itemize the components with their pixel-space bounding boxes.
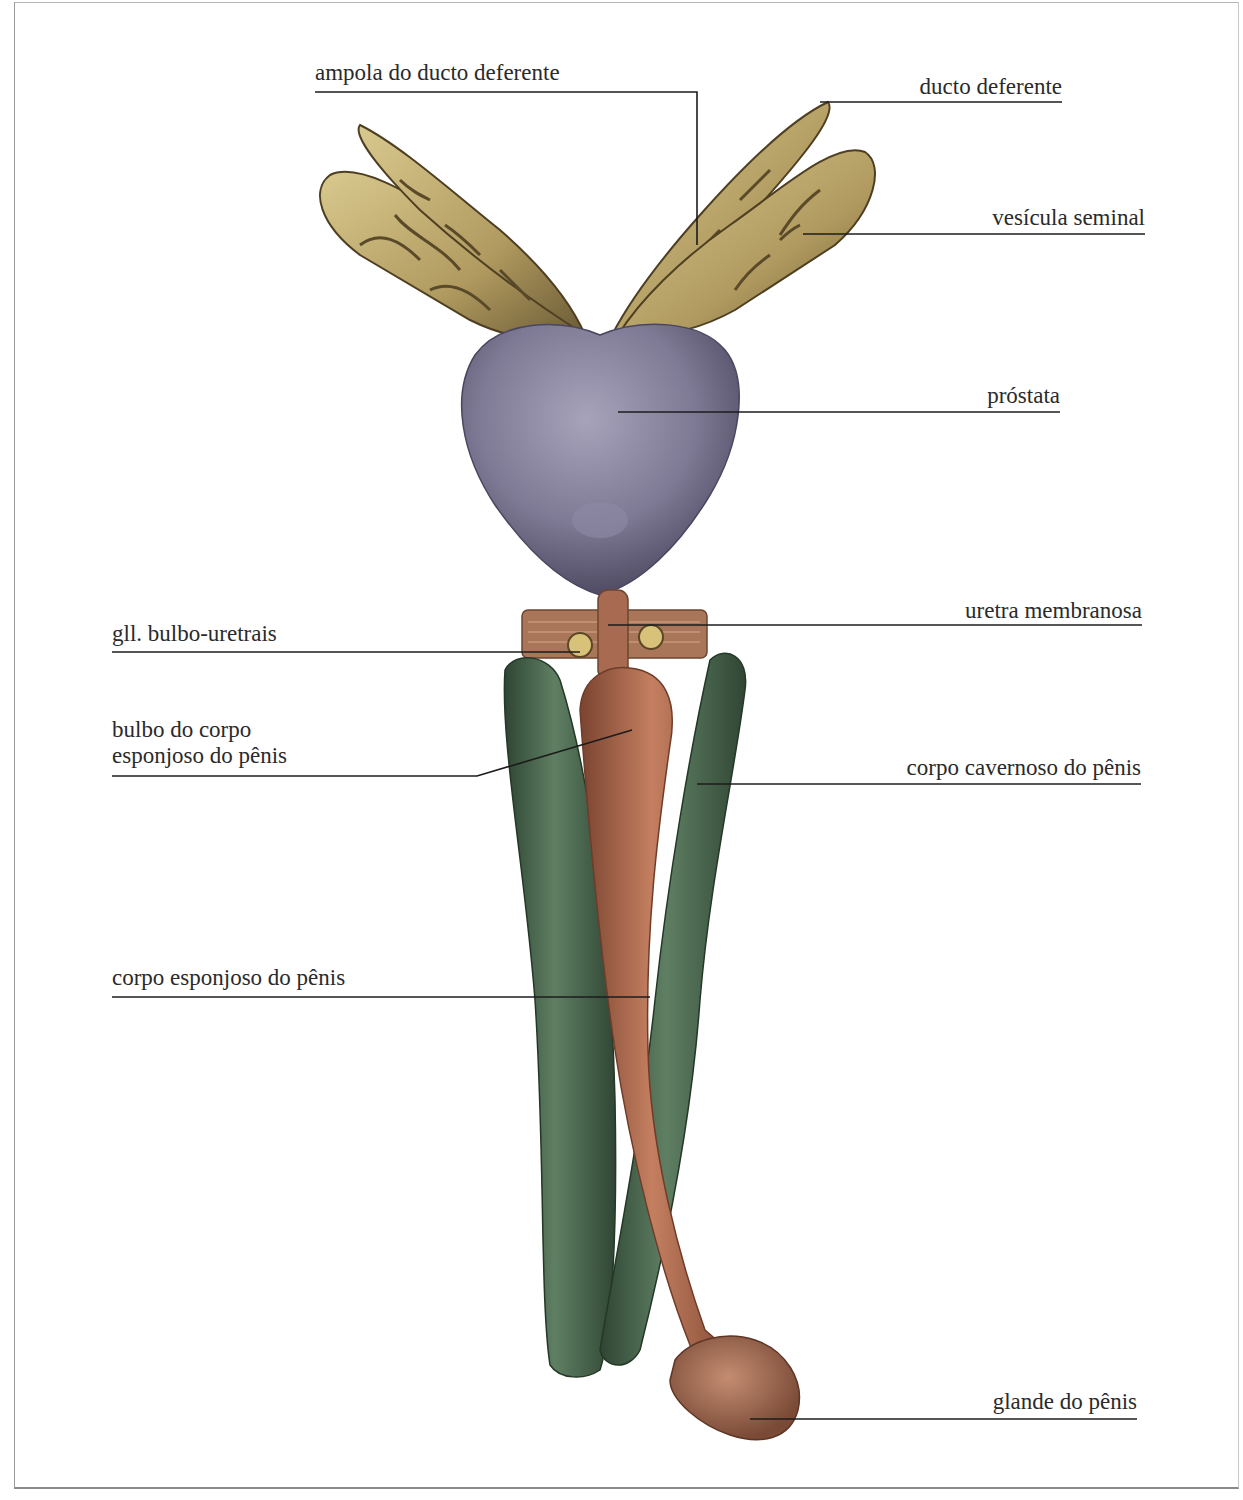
label-ducto-deferente: ducto deferente [920,74,1062,100]
prostate [462,324,740,595]
prostate-highlight [572,502,628,538]
label-glande-penis: glande do pênis [993,1389,1137,1415]
label-bulbo-corpo-line1: bulbo do corpo [112,717,251,743]
left-bulbourethral-gland [568,633,592,657]
glans-penis [670,1336,799,1440]
label-uretra-membranosa: uretra membranosa [965,598,1142,624]
right-bulbourethral-gland [639,625,663,649]
label-prostata: próstata [987,383,1060,409]
label-corpo-esponjoso: corpo esponjoso do pênis [112,965,345,991]
label-bulbo-corpo-line2: esponjoso do pênis [112,743,287,769]
label-gll-bulbo-uretrais: gll. bulbo-uretrais [112,621,277,647]
label-corpo-cavernoso: corpo cavernoso do pênis [907,755,1141,781]
label-ampola-ducto-deferente: ampola do ducto deferente [315,60,560,86]
label-vesicula-seminal: vesícula seminal [992,205,1145,231]
membranous-urethra [598,590,628,680]
